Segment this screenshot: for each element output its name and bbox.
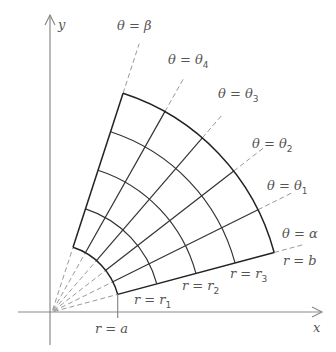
outer-dashed-ray xyxy=(274,244,305,252)
ray-label-beta: θ = β xyxy=(117,18,152,33)
arc-label-r1: r = r1 xyxy=(134,292,171,310)
inner-dashed-ray xyxy=(53,261,96,311)
x-axis-label: x xyxy=(313,320,321,335)
outer-dashed-ray xyxy=(234,148,264,171)
outer-dashed-ray xyxy=(123,44,139,93)
arc-label-r3: r = r3 xyxy=(230,266,267,284)
arc-label-r2: r = r2 xyxy=(182,278,219,296)
ray-label-theta1: θ = θ1 xyxy=(267,178,308,196)
arc-r xyxy=(123,93,274,252)
y-axis-label: y xyxy=(57,17,66,32)
inner-dashed-ray xyxy=(53,247,73,310)
inner-dashed-ray xyxy=(53,253,85,311)
ray-label-theta3: θ = θ3 xyxy=(218,86,259,104)
outer-dashed-ray xyxy=(165,77,185,112)
arc-label-a: r = a xyxy=(95,321,128,336)
ray-label-alpha: θ = α xyxy=(282,226,318,241)
polar-rectangle-diagram: x y θ = αθ = θ1θ = θ2θ = θ3θ = θ4θ = βr … xyxy=(0,0,336,352)
arc-r xyxy=(86,209,157,284)
arc-r xyxy=(73,247,118,294)
outer-dashed-ray xyxy=(258,192,294,210)
ray-label-theta4: θ = θ4 xyxy=(168,52,209,70)
inner-dashed-ray xyxy=(54,282,113,311)
polar-grid xyxy=(73,93,274,318)
ray-label-theta2: θ = θ2 xyxy=(252,136,293,154)
outer-dashed-ray xyxy=(202,114,223,138)
arc-label-b: r = b xyxy=(283,253,317,268)
